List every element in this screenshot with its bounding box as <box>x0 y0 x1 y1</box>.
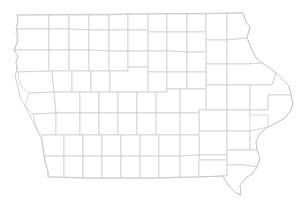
county-region <box>33 113 56 135</box>
county-region <box>227 110 250 131</box>
county-region <box>206 85 227 110</box>
county-region <box>187 32 206 52</box>
county-region <box>109 51 128 71</box>
county-region <box>14 50 52 72</box>
county-region <box>187 52 206 72</box>
county-region <box>56 113 80 135</box>
county-region <box>227 131 250 150</box>
county-region <box>199 160 227 177</box>
county-region <box>118 113 137 135</box>
county-region <box>128 14 148 30</box>
county-region <box>206 64 227 85</box>
county-region <box>109 14 128 30</box>
county-region <box>199 131 227 155</box>
county-region <box>167 14 187 32</box>
county-region <box>199 110 227 131</box>
county-region <box>121 156 140 178</box>
county-region <box>187 14 206 32</box>
county-region <box>99 113 118 135</box>
county-region <box>180 135 199 156</box>
county-region <box>83 156 102 178</box>
county-region <box>227 13 250 40</box>
county-region <box>199 155 227 160</box>
county-region <box>156 89 180 113</box>
county-region <box>148 14 167 32</box>
county-region <box>167 32 187 52</box>
county-region <box>223 165 257 195</box>
county-region <box>109 30 128 51</box>
county-region <box>52 71 72 92</box>
county-region <box>148 72 167 92</box>
county-region <box>14 29 49 50</box>
county-region <box>89 30 109 51</box>
county-region <box>64 135 83 156</box>
county-region <box>89 15 109 30</box>
county-region <box>140 156 159 178</box>
county-region <box>159 156 180 178</box>
county-region <box>99 92 118 113</box>
county-region <box>80 92 99 113</box>
county-region <box>180 89 206 113</box>
county-region <box>18 71 54 93</box>
county-region <box>25 92 56 114</box>
county-region <box>206 40 227 64</box>
county-region <box>17 15 49 29</box>
county-region <box>69 15 89 30</box>
county-region <box>167 51 187 72</box>
county-region <box>102 156 121 178</box>
county-region <box>227 38 262 64</box>
county-region <box>180 113 199 135</box>
county-region <box>227 63 276 85</box>
county-region <box>187 72 206 89</box>
county-region <box>49 29 69 50</box>
county-region <box>159 135 180 156</box>
county-region <box>206 13 227 40</box>
county-region <box>137 113 156 135</box>
county-region <box>137 92 156 113</box>
county-region <box>180 155 199 177</box>
county-region <box>64 156 83 178</box>
county-region <box>156 113 180 135</box>
county-region <box>148 51 167 72</box>
county-region <box>69 50 89 71</box>
county-region <box>110 67 148 92</box>
county-region <box>118 92 137 113</box>
county-layer <box>14 13 293 195</box>
county-region <box>83 135 102 156</box>
county-region <box>72 71 91 92</box>
county-region <box>91 71 110 92</box>
county-region <box>140 135 159 156</box>
county-region <box>80 113 99 135</box>
county-region <box>227 150 260 167</box>
county-region <box>89 50 109 71</box>
county-region <box>128 30 148 51</box>
county-region <box>128 51 148 67</box>
county-region <box>227 85 250 110</box>
county-region <box>49 15 69 29</box>
county-region <box>44 156 64 177</box>
county-region <box>54 92 80 113</box>
county-region <box>250 127 268 150</box>
county-region <box>102 135 121 156</box>
county-region <box>121 135 140 156</box>
county-region <box>42 135 64 156</box>
county-region <box>69 29 89 50</box>
iowa-county-map <box>0 0 308 209</box>
county-region <box>49 50 69 71</box>
county-region <box>148 32 167 51</box>
